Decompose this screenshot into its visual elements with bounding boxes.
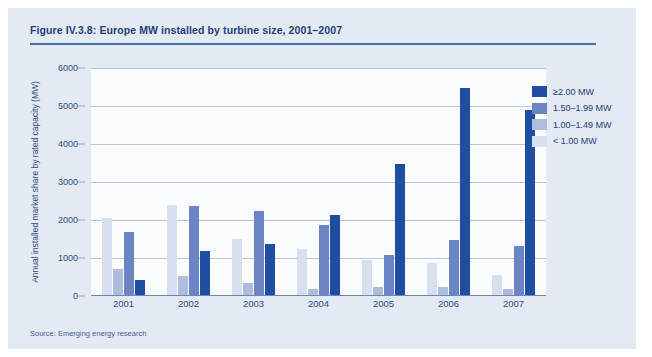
bar-group bbox=[156, 68, 221, 296]
bar bbox=[449, 240, 459, 296]
bar bbox=[330, 215, 340, 296]
chart-legend: ≥2.00 MW1.50–1.99 MW1.00–1.49 MW< 1.00 M… bbox=[532, 86, 612, 152]
bar-groups bbox=[91, 68, 546, 296]
y-axis-tick-label: 1000 bbox=[58, 253, 78, 263]
legend-swatch bbox=[532, 86, 547, 97]
y-axis-title: Annual installed market share by rated c… bbox=[28, 68, 42, 296]
bar bbox=[492, 275, 502, 296]
y-axis-ticks: 0100020003000400050006000 bbox=[42, 68, 84, 296]
x-axis-tick-label: 2003 bbox=[221, 298, 286, 309]
y-axis-tick-mark bbox=[78, 68, 85, 69]
source-note: Source: Emerging energy research bbox=[30, 329, 146, 338]
x-axis-tick-label: 2007 bbox=[481, 298, 546, 309]
y-axis-tick-label: 2000 bbox=[58, 215, 78, 225]
x-axis-tick-label: 2001 bbox=[91, 298, 156, 309]
figure-header: Figure IV.3.8: Europe MW installed by tu… bbox=[30, 24, 600, 45]
bar bbox=[167, 205, 177, 296]
bar bbox=[427, 263, 437, 296]
legend-swatch bbox=[532, 103, 547, 114]
y-axis-tick-label: 6000 bbox=[58, 63, 78, 73]
chart-plot: Annual installed market share by rated c… bbox=[30, 68, 616, 323]
title-divider bbox=[30, 43, 596, 45]
bar-group bbox=[91, 68, 156, 296]
bar bbox=[232, 239, 242, 296]
x-axis-tick-label: 2006 bbox=[416, 298, 481, 309]
legend-label: 1.50–1.99 MW bbox=[553, 103, 612, 113]
bar-group bbox=[221, 68, 286, 296]
bar bbox=[384, 255, 394, 296]
plot-area bbox=[91, 68, 546, 296]
bar bbox=[124, 232, 134, 296]
bar-group bbox=[286, 68, 351, 296]
legend-label: 1.00–1.49 MW bbox=[553, 120, 612, 130]
y-axis-title-text: Annual installed market share by rated c… bbox=[30, 81, 40, 283]
bar bbox=[200, 251, 210, 296]
legend-item: 1.00–1.49 MW bbox=[532, 119, 612, 130]
legend-item: ≥2.00 MW bbox=[532, 86, 612, 97]
bar bbox=[135, 280, 145, 296]
bar bbox=[265, 244, 275, 296]
y-axis-tick-label: 5000 bbox=[58, 101, 78, 111]
legend-item: 1.50–1.99 MW bbox=[532, 103, 612, 114]
legend-swatch bbox=[532, 119, 547, 130]
bar bbox=[189, 206, 199, 296]
x-axis-line bbox=[91, 295, 546, 296]
y-axis-tick-mark bbox=[78, 106, 85, 107]
x-axis-tick-label: 2002 bbox=[156, 298, 221, 309]
figure-panel: Figure IV.3.8: Europe MW installed by tu… bbox=[8, 8, 636, 349]
bar bbox=[254, 211, 264, 297]
figure-title: Figure IV.3.8: Europe MW installed by tu… bbox=[30, 24, 600, 36]
y-axis-tick-mark bbox=[78, 296, 85, 297]
bar bbox=[102, 218, 112, 296]
bar bbox=[395, 164, 405, 296]
y-axis-tick-mark bbox=[78, 182, 85, 183]
bar-group bbox=[416, 68, 481, 296]
y-axis-tick-mark bbox=[78, 144, 85, 145]
bar bbox=[460, 88, 470, 296]
bar bbox=[113, 269, 123, 296]
x-axis-tick-label: 2005 bbox=[351, 298, 416, 309]
bar bbox=[514, 246, 524, 296]
legend-item: < 1.00 MW bbox=[532, 136, 612, 147]
y-axis-tick-label: 4000 bbox=[58, 139, 78, 149]
legend-swatch bbox=[532, 136, 547, 147]
y-axis-tick-label: 3000 bbox=[58, 177, 78, 187]
y-axis-tick-mark bbox=[78, 258, 85, 259]
y-axis-tick-mark bbox=[78, 220, 85, 221]
bar-group bbox=[351, 68, 416, 296]
bar bbox=[297, 249, 307, 297]
legend-label: < 1.00 MW bbox=[553, 136, 597, 146]
bar bbox=[319, 225, 329, 296]
x-axis-labels: 2001200220032004200520062007 bbox=[91, 298, 546, 309]
legend-label: ≥2.00 MW bbox=[553, 87, 594, 97]
bar bbox=[178, 276, 188, 296]
x-axis-tick-label: 2004 bbox=[286, 298, 351, 309]
bar bbox=[362, 260, 372, 296]
